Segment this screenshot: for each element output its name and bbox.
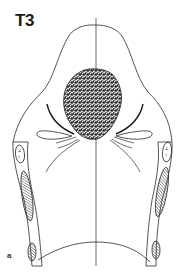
larynx-diagram: ∠ † ∠ † — [0, 0, 183, 276]
cartilage-left-short — [28, 243, 36, 261]
arytenoid-right — [161, 142, 172, 163]
cartilage-right-short — [152, 241, 160, 259]
curve-left-3 — [46, 140, 80, 172]
svg-text:†: † — [165, 153, 167, 158]
bottom-arc — [38, 242, 150, 262]
svg-text:∠: ∠ — [18, 148, 22, 153]
cartilage-right-long — [153, 167, 172, 218]
svg-text:∠: ∠ — [165, 146, 169, 151]
vocal-fold-left — [37, 131, 72, 139]
tumor-mass — [64, 69, 122, 140]
svg-text:†: † — [18, 155, 20, 160]
curve-right-3 — [110, 140, 140, 172]
